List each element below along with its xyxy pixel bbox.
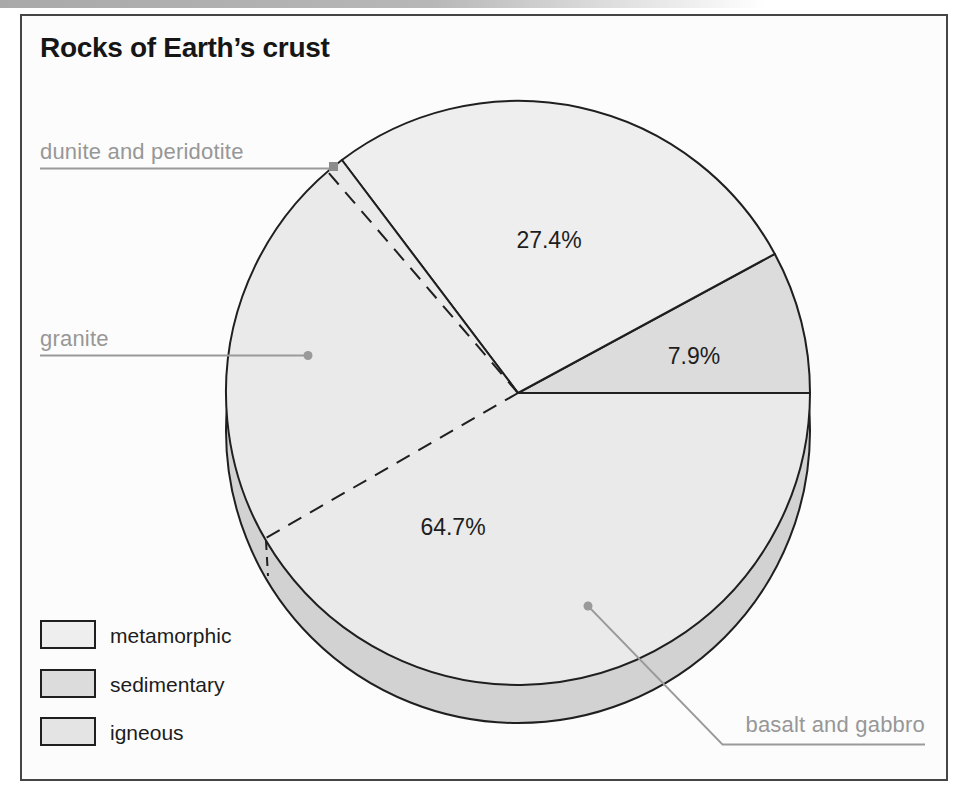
basalt-callout-dot [584,602,593,611]
pie-chart-figure [0,0,957,791]
dunite-callout-marker [329,162,338,171]
granite-callout-dot [304,351,313,360]
